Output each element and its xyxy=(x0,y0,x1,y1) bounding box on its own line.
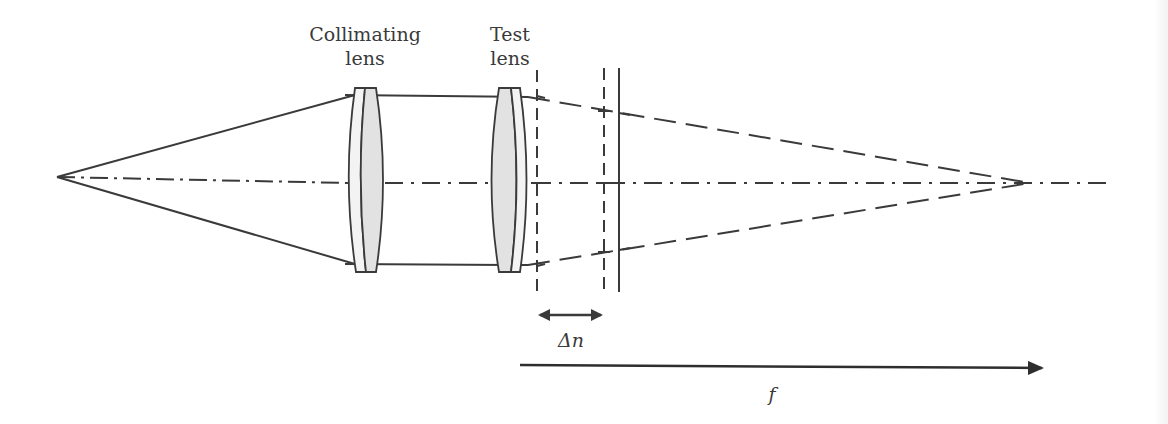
screen-plane xyxy=(619,68,630,292)
delta-n-label: Δn xyxy=(546,328,596,352)
optical-axis xyxy=(57,177,1112,183)
focal-length-label: f xyxy=(760,382,784,406)
test-lens-label: Test lens xyxy=(480,22,540,70)
dashed-plane-1 xyxy=(531,70,545,292)
optical-diagram xyxy=(0,0,1168,424)
collimating-lens-label-line1: Collimating xyxy=(300,22,430,46)
collimating-lens-label-line2: lens xyxy=(300,46,430,70)
collimating-lens xyxy=(349,88,383,272)
test-lens-label-line2: lens xyxy=(480,46,540,70)
dashed-plane-2 xyxy=(598,68,610,292)
page-edge-shadow xyxy=(1154,0,1168,424)
test-lens-label-line1: Test xyxy=(480,22,540,46)
collimating-lens-label: Collimating lens xyxy=(300,22,430,70)
focal-length-arrow xyxy=(520,365,1042,368)
test-lens xyxy=(492,88,527,272)
